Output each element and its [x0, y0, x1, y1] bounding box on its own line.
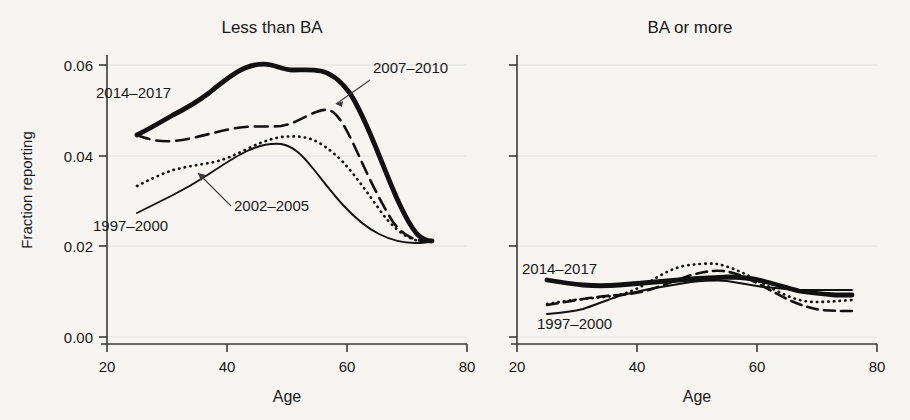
x-tick-right-3: 80: [869, 358, 886, 375]
panel-title-left: Less than BA: [221, 18, 323, 37]
x-axis-title-right: Age: [683, 388, 712, 405]
x-tick-left-2: 60: [339, 358, 356, 375]
series-label-left-2014-2017: 2014–2017: [96, 84, 171, 101]
series-label-left-2002-2005: 2002–2005: [234, 197, 309, 214]
panel-title-right: BA or more: [647, 18, 732, 37]
y-tick-2: 0.04: [64, 148, 93, 165]
x-tick-right-0: 20: [509, 358, 526, 375]
series-label-left-2007-2010: 2007–2010: [373, 59, 448, 76]
x-tick-left-3: 80: [459, 358, 476, 375]
y-axis-title: Fraction reporting: [18, 131, 35, 249]
y-tick-3: 0.06: [64, 57, 93, 74]
figure-background: [0, 0, 910, 420]
x-tick-left-0: 20: [99, 358, 116, 375]
x-axis-title-left: Age: [273, 388, 302, 405]
x-tick-right-2: 60: [749, 358, 766, 375]
y-tick-1: 0.02: [64, 238, 93, 255]
figure-root: Less than BA 0.00 0.: [0, 0, 910, 420]
chart-svg: Less than BA 0.00 0.: [0, 0, 910, 420]
y-tick-0: 0.00: [64, 329, 93, 346]
series-label-right-2014-2017: 2014–2017: [522, 260, 597, 277]
x-tick-left-1: 40: [219, 358, 236, 375]
series-label-left-1997-2000: 1997–2000: [93, 217, 168, 234]
series-label-right-1997-2000: 1997–2000: [537, 315, 612, 332]
x-tick-right-1: 40: [629, 358, 646, 375]
